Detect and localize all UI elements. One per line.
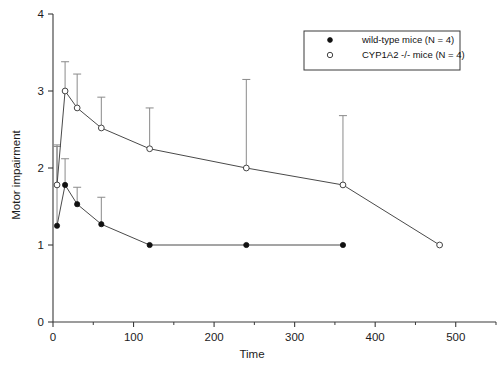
- x-tick-label-400: 400: [366, 331, 385, 343]
- chart-legend: wild-type mice (N = 4)CYP1A2 -/- mice (N…: [304, 31, 465, 70]
- data-point: [243, 165, 249, 171]
- y-tick-label-3: 3: [38, 85, 44, 97]
- y-tick-label-2: 2: [38, 162, 44, 174]
- chart-figure: 012340100200300400500 wild-type mice (N …: [0, 0, 504, 373]
- legend-marker: [327, 52, 332, 57]
- data-point: [62, 88, 68, 94]
- data-series: [53, 62, 442, 248]
- data-point: [340, 242, 345, 247]
- data-point: [244, 242, 249, 247]
- y-axis-title: Motor impairment: [10, 129, 22, 219]
- data-point: [437, 242, 443, 248]
- data-point: [147, 242, 152, 247]
- data-point: [54, 182, 60, 188]
- x-tick-label-0: 0: [50, 331, 56, 343]
- legend-label: CYP1A2 -/- mice (N = 4): [362, 49, 465, 60]
- motor-impairment-line-chart: 012340100200300400500 wild-type mice (N …: [0, 0, 504, 373]
- y-tick-label-4: 4: [38, 8, 45, 20]
- x-axis-title: Time: [239, 348, 264, 360]
- legend-label: wild-type mice (N = 4): [361, 34, 454, 45]
- data-point: [340, 182, 346, 188]
- x-tick-label-500: 500: [446, 331, 465, 343]
- data-point: [99, 222, 104, 227]
- x-tick-label-100: 100: [124, 331, 143, 343]
- series-line: [57, 185, 343, 245]
- data-point: [54, 223, 59, 228]
- data-point: [62, 182, 67, 187]
- y-tick-label-1: 1: [38, 239, 44, 251]
- data-point: [98, 125, 104, 131]
- data-point: [147, 146, 153, 152]
- data-point: [74, 105, 80, 111]
- x-tick-label-200: 200: [204, 331, 223, 343]
- series-wild-type: [53, 146, 346, 247]
- x-tick-label-300: 300: [285, 331, 304, 343]
- y-tick-label-0: 0: [38, 316, 44, 328]
- legend-marker: [328, 38, 333, 43]
- data-point: [75, 202, 80, 207]
- series-cyp1a2-ko: [53, 62, 442, 248]
